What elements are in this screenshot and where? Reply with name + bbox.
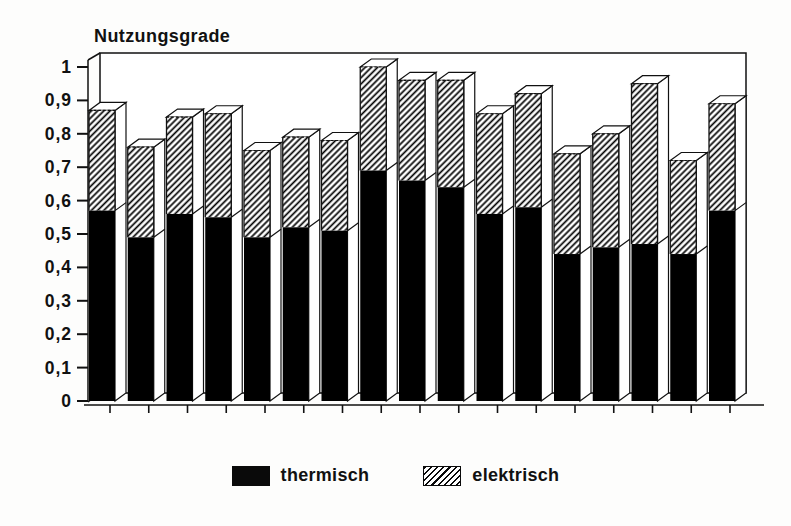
bar-side-face [541, 86, 552, 401]
stacked-bar-14 [593, 126, 630, 401]
bar-segment-thermisch [515, 207, 541, 401]
bar-segment-thermisch [167, 214, 193, 401]
stacked-bar-17 [709, 96, 746, 401]
bar-segment-elektrisch [322, 140, 348, 230]
stacked-bar-8 [360, 59, 397, 401]
bar-segment-thermisch [128, 237, 154, 401]
chart-plot: 10,90,80,70,60,50,40,30,20,10 [0, 0, 791, 526]
bar-segment-elektrisch [554, 154, 580, 254]
bar-segment-elektrisch [515, 94, 541, 208]
stacked-bar-13 [554, 146, 591, 401]
bar-segment-elektrisch [360, 67, 386, 171]
y-axis: 10,90,80,70,60,50,40,30,20,10 [45, 57, 88, 411]
bar-segment-elektrisch [632, 84, 658, 244]
bar-segment-thermisch [244, 237, 270, 401]
bar-segment-thermisch [283, 227, 309, 401]
legend: thermisch elektrisch [0, 465, 791, 486]
y-axis-label: 0,2 [45, 324, 72, 344]
stacked-bar-15 [632, 76, 669, 401]
y-axis-label: 1 [61, 57, 72, 77]
stacked-bar-12 [515, 86, 552, 401]
stacked-bar-16 [670, 153, 707, 401]
bar-segment-thermisch [709, 211, 735, 401]
stacked-bar-10 [438, 72, 475, 401]
bar-segment-elektrisch [709, 104, 735, 211]
bar-segment-thermisch [554, 254, 580, 401]
bar-segment-elektrisch [283, 137, 309, 227]
bar-side-face [348, 132, 359, 401]
bar-segment-elektrisch [399, 80, 425, 180]
bar-segment-elektrisch [593, 134, 619, 248]
bar-segment-thermisch [632, 244, 658, 401]
bar-segment-thermisch [670, 254, 696, 401]
legend-item-elektrisch: elektrisch [423, 465, 559, 486]
bar-side-face [580, 146, 591, 401]
y-axis-label: 0,9 [45, 90, 72, 110]
y-axis-label: 0,4 [45, 257, 72, 277]
bar-side-face [735, 96, 746, 401]
bar-segment-elektrisch [244, 151, 270, 238]
stacked-bar-7 [322, 132, 359, 401]
x-axis [84, 405, 764, 413]
bar-side-face [115, 102, 126, 401]
bar-segment-thermisch [477, 214, 503, 401]
bar-segment-elektrisch [167, 117, 193, 214]
bar-side-face [231, 106, 242, 401]
stacked-bar-2 [128, 139, 165, 401]
legend-label-elektrisch: elektrisch [472, 465, 559, 486]
bar-side-face [386, 59, 397, 401]
stacked-bar-6 [283, 129, 320, 401]
bar-side-face [503, 106, 514, 401]
bar-side-face [309, 129, 320, 401]
legend-label-thermisch: thermisch [281, 465, 370, 486]
stacked-bar-4 [205, 106, 242, 401]
bar-segment-thermisch [205, 217, 231, 401]
bar-segment-thermisch [438, 187, 464, 401]
bar-segment-elektrisch [670, 161, 696, 255]
stacked-bar-11 [477, 106, 514, 401]
y-axis-label: 0,6 [45, 191, 72, 211]
bar-segment-thermisch [360, 171, 386, 401]
bar-segment-thermisch [399, 181, 425, 401]
elektrisch-swatch-icon [423, 466, 461, 486]
bar-side-face [270, 143, 281, 402]
bar-side-face [193, 109, 204, 401]
y-axis-label: 0 [61, 391, 72, 411]
stacked-bar-3 [167, 109, 204, 401]
bar-side-face [658, 76, 669, 401]
bar-segment-thermisch [322, 231, 348, 401]
y-axis-label: 0,1 [45, 358, 72, 378]
y-axis-label: 0,8 [45, 124, 72, 144]
bar-segment-thermisch [89, 211, 115, 401]
bar-side-face [619, 126, 630, 401]
bar-side-face [425, 72, 436, 401]
bar-segment-elektrisch [128, 147, 154, 237]
thermisch-swatch-icon [232, 466, 270, 486]
bar-segment-elektrisch [477, 114, 503, 214]
y-axis-label: 0,5 [45, 224, 72, 244]
bar-segment-elektrisch [89, 110, 115, 210]
bar-segment-thermisch [593, 247, 619, 401]
stacked-bar-9 [399, 72, 436, 401]
legend-item-thermisch: thermisch [232, 465, 370, 486]
bar-segment-elektrisch [438, 80, 464, 187]
stacked-bar-1 [89, 102, 126, 401]
stacked-bar-5 [244, 143, 281, 402]
bar-side-face [696, 153, 707, 401]
y-axis-label: 0,7 [45, 157, 72, 177]
y-axis-label: 0,3 [45, 291, 72, 311]
bar-side-face [464, 72, 475, 401]
bar-side-face [154, 139, 165, 401]
bar-segment-elektrisch [205, 114, 231, 218]
chart-page: { "page": { "title": "Nutzungsgrade" }, … [0, 0, 791, 526]
